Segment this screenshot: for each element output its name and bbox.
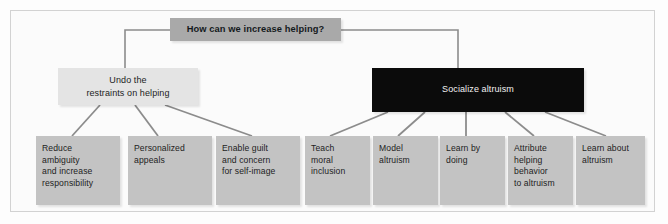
text-line: and concern (222, 155, 300, 167)
text-line: Undo the (86, 74, 169, 87)
text-line: Learn about (582, 143, 645, 155)
text-line: ambiguity (42, 155, 120, 167)
text-line: appeals (134, 155, 212, 167)
root-node-how-can-we-increase-helping[interactable]: How can we increase helping? (170, 18, 341, 41)
branch-node-undo-restraints-label: Undo the restraints on helping (86, 74, 169, 99)
text-line: helping (514, 155, 573, 167)
leaf-node-model-altruism[interactable]: Model altruism (373, 136, 438, 205)
text-line: Attribute (514, 143, 573, 155)
text-line: Teach (311, 143, 370, 155)
branch-node-socialize-altruism-label: Socialize altruism (442, 84, 514, 96)
text-line: moral (311, 155, 370, 167)
branch-node-socialize-altruism[interactable]: Socialize altruism (372, 68, 584, 112)
text-line: Learn by (446, 143, 505, 155)
leaf-node-learn-by-doing[interactable]: Learn by doing (440, 136, 505, 205)
text-line: responsibility (42, 178, 120, 190)
leaf-node-learn-about-altruism[interactable]: Learn about altruism (576, 136, 645, 205)
text-line: inclusion (311, 166, 370, 178)
text-line: doing (446, 155, 505, 167)
text-line: Model (379, 143, 438, 155)
branch-node-undo-restraints[interactable]: Undo the restraints on helping (58, 68, 198, 105)
text-line: Enable guilt (222, 143, 300, 155)
root-node-label: How can we increase helping? (187, 24, 325, 36)
leaf-node-teach-moral-inclusion[interactable]: Teach moral inclusion (305, 136, 370, 205)
text-line: behavior (514, 166, 573, 178)
text-line: for self-image (222, 166, 300, 178)
leaf-node-personalized-appeals[interactable]: Personalized appeals (128, 136, 212, 205)
text-line: altruism (379, 155, 438, 167)
leaf-node-attribute-helping[interactable]: Attribute helping behavior to altruism (508, 136, 573, 205)
text-line: altruism (582, 155, 645, 167)
text-line: to altruism (514, 178, 573, 190)
text-line: restraints on helping (86, 87, 169, 100)
leaf-node-reduce-ambiguity[interactable]: Reduce ambiguity and increase responsibi… (36, 136, 120, 205)
text-line: Reduce (42, 143, 120, 155)
flowchart-figure: How can we increase helping? Undo the re… (0, 0, 668, 224)
text-line: Personalized (134, 143, 212, 155)
leaf-node-enable-guilt[interactable]: Enable guilt and concern for self-image (216, 136, 300, 205)
text-line: and increase (42, 166, 120, 178)
